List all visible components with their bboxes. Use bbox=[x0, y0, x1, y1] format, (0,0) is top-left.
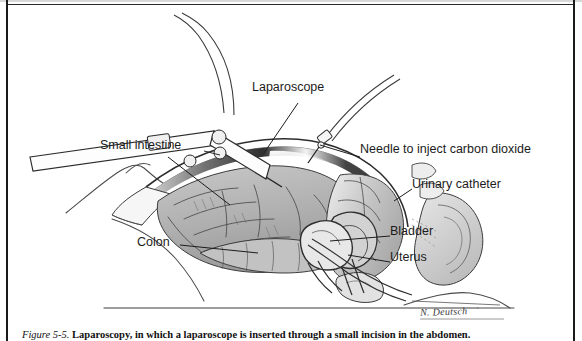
figure-caption: Figure 5-5. Laparoscopy, in which a lapa… bbox=[22, 329, 570, 341]
label-bladder: Bladder bbox=[390, 224, 433, 238]
figure-caption-number: Figure 5-5. bbox=[22, 329, 69, 340]
label-small-intestine: Small intestine bbox=[100, 138, 181, 152]
page-frame-right-rule bbox=[573, 0, 575, 341]
label-urinary-catheter: Urinary catheter bbox=[412, 177, 501, 191]
pubic-bone bbox=[336, 273, 384, 303]
laparoscope-instrument bbox=[30, 13, 282, 187]
artist-signature: N. Deutsch bbox=[420, 305, 468, 318]
label-needle-carbon-dioxide: Needle to inject carbon dioxide bbox=[360, 142, 531, 156]
page-edge-shadow bbox=[0, 0, 582, 2]
label-laparoscope: Laparoscope bbox=[252, 80, 324, 94]
figure-page: Laparoscope Small intestine Needle to in… bbox=[0, 0, 582, 341]
label-uterus: Uterus bbox=[390, 250, 427, 264]
laparoscopy-illustration bbox=[8, 5, 573, 323]
figure-caption-text: Laparoscopy, in which a laparoscope is i… bbox=[72, 329, 470, 340]
leader-laparoscope bbox=[264, 103, 298, 153]
label-colon: Colon bbox=[137, 235, 170, 249]
